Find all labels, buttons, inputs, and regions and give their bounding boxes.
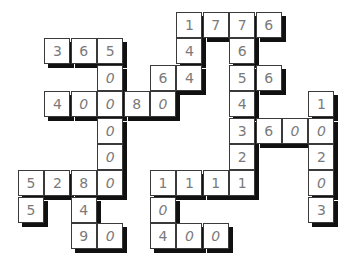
grid-cell[interactable]: 7 [203, 12, 229, 38]
grid-cell[interactable]: 4 [229, 91, 255, 117]
grid-cell[interactable]: 2 [308, 144, 334, 170]
grid-cell[interactable]: 1 [308, 91, 334, 117]
grid-cell[interactable]: 9 [71, 223, 97, 249]
grid-cell[interactable]: 3 [308, 197, 334, 223]
grid-cell[interactable]: 4 [176, 38, 202, 64]
grid-cell[interactable]: 7 [229, 12, 255, 38]
grid-cell[interactable]: 1 [176, 170, 202, 196]
grid-cell[interactable]: 0 [176, 223, 202, 249]
grid-cell[interactable]: 0 [97, 118, 123, 144]
grid-cell[interactable]: 6 [256, 118, 282, 144]
grid-cell[interactable]: 0 [282, 118, 308, 144]
grid-cell[interactable]: 8 [71, 170, 97, 196]
grid-cell[interactable]: 1 [203, 170, 229, 196]
grid-cell[interactable]: 2 [229, 144, 255, 170]
grid-cell[interactable]: 0 [97, 223, 123, 249]
grid-cell[interactable]: 0 [97, 65, 123, 91]
grid-cell[interactable]: 0 [97, 144, 123, 170]
grid-cell[interactable]: 0 [203, 223, 229, 249]
grid-cell[interactable]: 4 [150, 223, 176, 249]
grid-cell[interactable]: 6 [150, 65, 176, 91]
grid-cell[interactable]: 1 [229, 170, 255, 196]
grid-cell[interactable]: 6 [71, 38, 97, 64]
grid-cell[interactable]: 6 [229, 38, 255, 64]
grid-cell[interactable]: 0 [308, 170, 334, 196]
grid-cell[interactable]: 0 [308, 118, 334, 144]
grid-cell[interactable]: 0 [97, 170, 123, 196]
grid-cell[interactable]: 5 [97, 38, 123, 64]
grid-cell[interactable]: 1 [150, 170, 176, 196]
grid-cell[interactable]: 4 [44, 91, 70, 117]
grid-cell[interactable]: 5 [18, 170, 44, 196]
grid-cell[interactable]: 3 [229, 118, 255, 144]
grid-cell[interactable]: 0 [97, 91, 123, 117]
grid-cell[interactable]: 2 [44, 170, 70, 196]
grid-cell[interactable]: 5 [18, 197, 44, 223]
grid-cell[interactable]: 5 [229, 65, 255, 91]
grid-cell[interactable]: 6 [256, 65, 282, 91]
grid-cell[interactable]: 1 [176, 12, 202, 38]
number-crossword-grid: 1776365460645640080410360002252801111054… [0, 0, 351, 273]
grid-cell[interactable]: 4 [176, 65, 202, 91]
grid-cell[interactable]: 0 [150, 197, 176, 223]
grid-cell[interactable]: 8 [124, 91, 150, 117]
grid-cell[interactable]: 6 [256, 12, 282, 38]
grid-cell[interactable]: 0 [71, 91, 97, 117]
grid-cell[interactable]: 0 [150, 91, 176, 117]
grid-cell[interactable]: 4 [71, 197, 97, 223]
grid-cell[interactable]: 3 [44, 38, 70, 64]
